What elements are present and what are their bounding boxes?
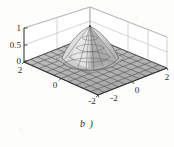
y-tick-label-2: 2 bbox=[18, 65, 23, 75]
figure-caption: b ) bbox=[0, 118, 174, 129]
x-tick-label-2: 2 bbox=[165, 72, 170, 82]
x-tick-label-0: 0 bbox=[135, 85, 140, 95]
figure-b-surface-plot: 1 0.5 0 2 0 -2 -2 0 2 b ) bbox=[0, 0, 174, 147]
x-tick-2 bbox=[167, 68, 168, 71]
y-tick-label-0: 0 bbox=[53, 80, 58, 90]
z-tick-label-1: 1 bbox=[17, 23, 22, 33]
z-tick-label-05: 0.5 bbox=[10, 40, 22, 50]
bell-peak-marker bbox=[89, 25, 91, 27]
x-tick-m2 bbox=[98, 95, 99, 98]
y-tick-label-m2: -2 bbox=[88, 96, 96, 106]
y-tick-0 bbox=[59, 79, 61, 81]
y-tick-2 bbox=[22, 62, 24, 64]
x-tick-label-m2: -2 bbox=[110, 93, 118, 103]
x-tick-0 bbox=[133, 82, 134, 85]
